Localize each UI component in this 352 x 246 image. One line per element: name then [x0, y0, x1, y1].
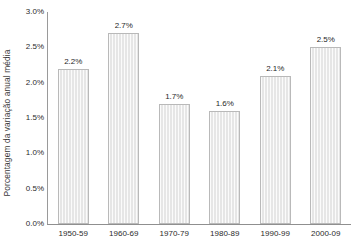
y-axis-tick-labels: 0.0%0.5%1.0%1.5%2.0%2.5%3.0%	[13, 0, 46, 246]
chart-title-cropped	[0, 0, 352, 5]
bar-group: 1.7%	[159, 12, 190, 224]
bar-group: 2.1%	[260, 12, 291, 224]
plot-area: 2.2%2.7%1.7%1.6%2.1%2.5%	[48, 12, 351, 224]
bar-value-label: 2.2%	[64, 58, 82, 66]
bar-value-label: 2.5%	[317, 36, 335, 44]
x-axis-tick-label: 1950-59	[59, 230, 88, 238]
x-axis-tick-label: 1990-99	[261, 230, 290, 238]
x-axis-tick-labels: 1950-591960-691970-791980-891990-992000-…	[48, 230, 351, 244]
y-axis-tick-label: 0.5%	[26, 185, 44, 193]
bar-group: 2.2%	[58, 12, 89, 224]
y-axis-tick-label: 1.5%	[26, 114, 44, 122]
bar-group: 2.5%	[310, 12, 341, 224]
bar-group: 2.7%	[108, 12, 139, 224]
bar[interactable]	[58, 69, 89, 224]
y-axis-tick-label: 3.0%	[26, 8, 44, 16]
bar-value-label: 2.1%	[266, 65, 284, 73]
bar[interactable]	[209, 111, 240, 224]
y-axis-tick-label: 0.0%	[26, 220, 44, 228]
bar[interactable]	[159, 104, 190, 224]
x-axis-tick-label: 1970-79	[160, 230, 189, 238]
bar-value-label: 1.6%	[216, 100, 234, 108]
y-axis-tick-label: 2.5%	[26, 43, 44, 51]
bar[interactable]	[310, 47, 341, 224]
bar[interactable]	[108, 33, 139, 224]
x-axis-tick-label: 1980-89	[210, 230, 239, 238]
bar-value-label: 2.7%	[115, 22, 133, 30]
y-axis-title: Porcentagem da variação anual média	[0, 0, 13, 246]
y-axis-tick-label: 1.0%	[26, 149, 44, 157]
y-axis-tick-label: 2.0%	[26, 79, 44, 87]
x-axis-tick-label: 1960-69	[109, 230, 138, 238]
bar-group: 1.6%	[209, 12, 240, 224]
bar[interactable]	[260, 76, 291, 224]
x-axis-line	[47, 224, 351, 225]
x-axis-tick-label: 2000-09	[311, 230, 340, 238]
bar-chart: Porcentagem da variação anual média 0.0%…	[0, 0, 352, 246]
bar-value-label: 1.7%	[165, 93, 183, 101]
